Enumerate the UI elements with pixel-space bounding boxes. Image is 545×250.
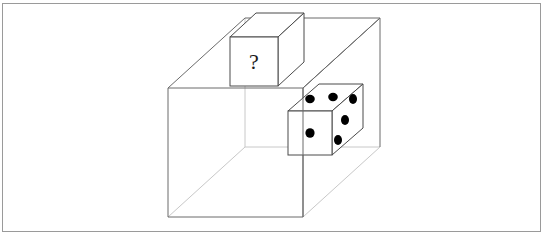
die-pip [341,115,349,125]
die-pip [305,128,314,138]
caption-strip [0,238,545,250]
die-pip [334,135,342,145]
die-pip [305,95,315,103]
die-pip [349,94,357,104]
figure-root: ? [0,0,545,250]
diagram-canvas: ? [0,0,545,250]
die-pip [328,93,338,101]
die-front-pips [305,128,314,138]
question-mark-label: ? [249,49,259,74]
